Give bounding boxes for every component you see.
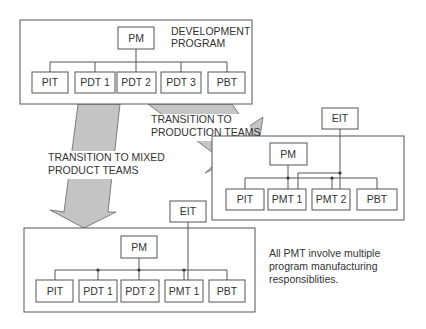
team-label: PMT 2 [316,193,347,205]
eit-label: EIT [332,112,349,124]
org-transition-diagram: DEVELOPMENT PROGRAM PM PIT PDT 1 PDT 2 P… [0,0,426,329]
arrow-mixed-caption-line1: TRANSITION TO MIXED [48,151,165,163]
team-label: PIT [237,193,254,205]
eit-label: EIT [180,205,197,217]
note-line3: responsiblities. [269,273,338,285]
note-line1: All PMT involve multiple [269,247,380,259]
arrow-mixed-caption-line2: PRODUCT TEAMS [48,164,139,176]
pm-label: PM [128,32,144,44]
team-label: PDT 1 [83,285,113,297]
development-program-title-line1: DEVELOPMENT [171,25,251,37]
pm-label: PM [131,241,147,253]
team-label: PDT 2 [125,285,155,297]
team-label: PDT 2 [121,76,151,88]
team-label: PBT [217,285,238,297]
team-label: PIT [42,76,59,88]
note-line2: program manufacturing [269,260,378,272]
team-label: PBT [217,76,238,88]
development-program-group: DEVELOPMENT PROGRAM PM PIT PDT 1 PDT 2 P… [20,20,252,104]
arrow-production-caption-line1: TRANSITION TO [151,113,232,125]
team-label: PMT 1 [169,285,200,297]
team-label: PIT [47,285,64,297]
team-label: PMT 1 [272,193,303,205]
pm-label: PM [280,148,296,160]
team-label: PBT [367,193,388,205]
team-label: PDT 3 [166,76,196,88]
team-label: PDT 1 [80,76,110,88]
development-program-title-line2: PROGRAM [171,37,225,49]
